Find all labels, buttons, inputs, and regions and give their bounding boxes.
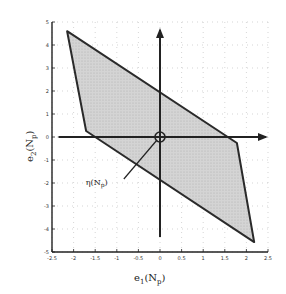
y-tick-label: -2 — [44, 180, 49, 186]
y-tick-label: -5 — [44, 249, 49, 255]
chart: -2.5-2-1.5-1-0.500.511.522.5 543210-1-2-… — [0, 0, 286, 294]
x-tick-label: -2 — [71, 255, 76, 261]
y-tick-label: 4 — [46, 42, 49, 48]
y-tick-label: -4 — [44, 226, 49, 232]
x-tick-label: -1 — [114, 255, 119, 261]
y-ticks: 543210-1-2-3-4-5 — [44, 19, 55, 255]
x-tick-label: 2.5 — [264, 255, 272, 261]
x-tick-label: -1.5 — [90, 255, 100, 261]
y-tick-label: -3 — [44, 203, 49, 209]
y-tick-label: 3 — [46, 65, 49, 71]
y-tick-label: 2 — [46, 88, 49, 94]
x-tick-label: 0.5 — [178, 255, 186, 261]
y-tick-label: 5 — [46, 19, 49, 25]
x-tick-label: -2.5 — [47, 255, 57, 261]
x-tick-label: 0 — [158, 255, 161, 261]
y-tick-label: 0 — [46, 134, 49, 140]
x-axis-label: e1(Np) — [134, 272, 166, 286]
x-tick-label: -0.5 — [134, 255, 144, 261]
y-tick-label: 1 — [46, 111, 49, 117]
y-axis-label: e2(Np) — [24, 130, 38, 162]
x-tick-label: 1 — [202, 255, 205, 261]
x-ticks: -2.5-2-1.5-1-0.500.511.522.5 — [47, 249, 272, 261]
x-tick-label: 1.5 — [221, 255, 229, 261]
annotation-label: η(Np) — [86, 178, 108, 189]
x-tick-label: 2 — [245, 255, 248, 261]
y-tick-label: -1 — [44, 157, 49, 163]
